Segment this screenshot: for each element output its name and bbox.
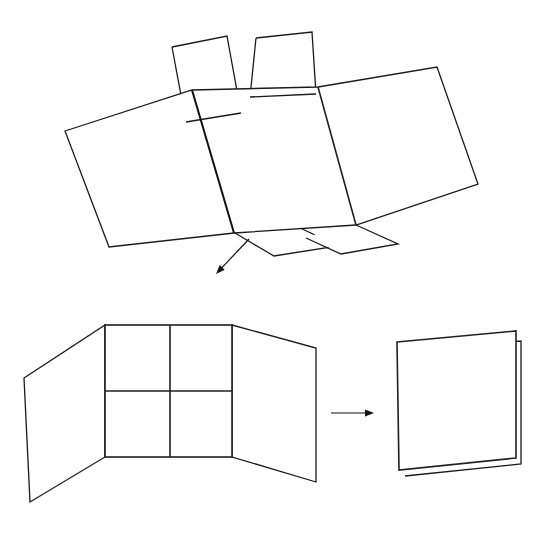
step-unfolded-box-net <box>65 32 478 274</box>
net-bottom-flap-right-group <box>305 225 398 254</box>
step-fully-folded-flat-panel <box>397 331 521 476</box>
arrow-folded-to-final <box>331 410 374 417</box>
net-body-face <box>65 67 478 247</box>
step-partially-folded-box <box>24 325 374 502</box>
arrow-net-to-folded-shaft <box>220 239 249 269</box>
final-front-layer-face <box>397 331 516 470</box>
folded-right-wing-face <box>232 325 316 482</box>
box-folding-diagram <box>0 0 553 536</box>
arrow-folded-to-final-head <box>365 410 374 417</box>
figure-canvas <box>0 0 553 536</box>
arrow-net-to-folded <box>216 239 249 274</box>
net-top-flap-right-face <box>250 32 315 96</box>
